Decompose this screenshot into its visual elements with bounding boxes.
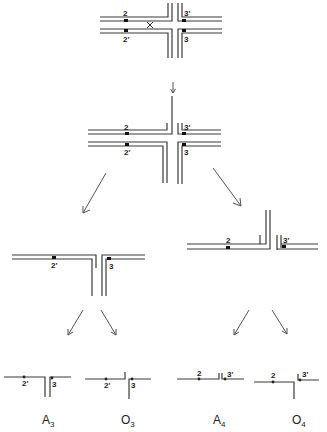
cut-mark-icon bbox=[147, 22, 153, 28]
marker-3 bbox=[51, 377, 54, 380]
label-3-prime: 3' bbox=[227, 370, 233, 379]
marker-3-prime bbox=[182, 132, 186, 135]
marker-2 bbox=[198, 378, 201, 381]
label-2-prime: 2' bbox=[51, 261, 57, 270]
label-3-prime: 3' bbox=[302, 370, 308, 379]
arrow-down-right-icon bbox=[213, 168, 241, 206]
label-3: 3 bbox=[52, 380, 57, 389]
label-2: 2 bbox=[271, 371, 276, 380]
caption-o4: O4 bbox=[292, 413, 306, 429]
stage1-junction: 2 2' 3' 3 bbox=[100, 3, 222, 58]
label-2-prime: 2' bbox=[22, 379, 28, 388]
marker-3-prime bbox=[224, 378, 227, 381]
label-3: 3 bbox=[131, 381, 136, 390]
label-3-prime: 3' bbox=[184, 123, 190, 132]
arrow-down-icon bbox=[171, 82, 176, 93]
label-3: 3 bbox=[184, 148, 189, 157]
arrow-to-o4-icon bbox=[272, 310, 287, 334]
caption-o3: O3 bbox=[121, 413, 135, 429]
stage2-junction: 2 2' 3' 3 bbox=[88, 96, 221, 184]
marker-2-prime bbox=[125, 143, 129, 146]
marker-2-prime bbox=[105, 378, 108, 381]
label-2: 2 bbox=[123, 9, 128, 18]
marker-2 bbox=[226, 246, 230, 249]
marker-3-prime bbox=[282, 245, 286, 248]
marker-3 bbox=[182, 143, 186, 146]
caption-a3: A3 bbox=[42, 413, 55, 429]
marker-2 bbox=[125, 132, 129, 135]
marker-2-prime bbox=[23, 376, 26, 379]
stage3-left-structure: 2' 3 bbox=[12, 255, 145, 296]
label-2: 2 bbox=[197, 369, 202, 378]
marker-3-prime bbox=[182, 19, 186, 22]
marker-3 bbox=[182, 29, 186, 32]
product-o4: 2 3' O4 bbox=[254, 370, 319, 429]
holliday-junction-diagram: 2 2' 3' 3 2 2' 3' 3 bbox=[0, 0, 327, 432]
arrow-to-a3-icon bbox=[68, 310, 83, 335]
marker-3 bbox=[107, 257, 111, 260]
label-2: 2 bbox=[226, 236, 231, 245]
marker-2-prime bbox=[124, 29, 128, 32]
diagram-canvas: 2 2' 3' 3 2 2' 3' 3 bbox=[0, 0, 327, 432]
label-2-prime: 2' bbox=[104, 381, 110, 390]
label-2-prime: 2' bbox=[124, 148, 130, 157]
label-3: 3 bbox=[109, 262, 114, 271]
label-2: 2 bbox=[124, 123, 129, 132]
label-3-prime: 3' bbox=[184, 9, 190, 18]
arrow-down-left-icon bbox=[83, 173, 106, 213]
stage3-right-structure: 2 3' bbox=[187, 210, 318, 250]
arrow-to-a4-icon bbox=[234, 310, 249, 335]
marker-2 bbox=[124, 19, 128, 22]
label-3-prime: 3' bbox=[283, 236, 289, 245]
caption-a4: A4 bbox=[213, 413, 226, 429]
label-2-prime: 2' bbox=[123, 35, 129, 44]
marker-2-prime bbox=[52, 256, 56, 259]
product-a3: 2' 3 A3 bbox=[4, 376, 71, 429]
arrow-to-o3-icon bbox=[101, 310, 116, 335]
product-a4: 2 3' A4 bbox=[177, 369, 244, 429]
product-o3: 2' 3 O3 bbox=[85, 372, 151, 429]
marker-3-prime bbox=[299, 379, 302, 382]
marker-3 bbox=[131, 378, 134, 381]
label-3: 3 bbox=[184, 35, 189, 44]
marker-2 bbox=[272, 381, 275, 384]
